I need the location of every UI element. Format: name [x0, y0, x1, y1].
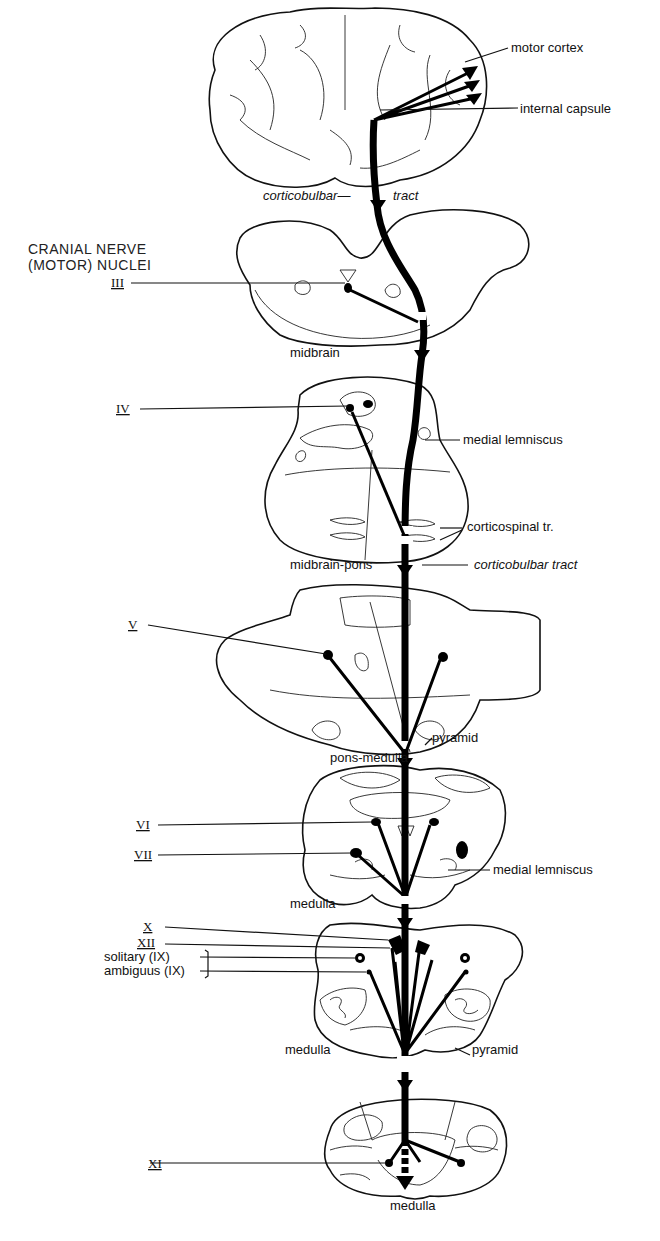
nucleus-label-X: X	[143, 919, 153, 934]
label-medial-lemniscus-2: medial lemniscus	[493, 862, 593, 877]
heading-line2: (MOTOR) NUCLEI	[28, 257, 151, 273]
section-label-midbrain-pons: midbrain-pons	[290, 557, 373, 572]
nuclear-branches	[323, 283, 470, 1167]
nucleus-label-VI: VI	[136, 817, 150, 832]
section-label-pons-medulla: pons-medulla	[330, 750, 409, 765]
label-corticobulbar-top: corticobulbar—	[263, 188, 351, 203]
label-pyramid-2: pyramid	[472, 1042, 518, 1057]
corticobulbar-tract-path	[370, 66, 482, 1190]
label-tract-top: tract	[393, 188, 420, 203]
section-label-medulla-middle: medulla	[285, 1042, 331, 1057]
nucleus-label-V: V	[128, 617, 138, 632]
nucleus-label-ambiguus: ambiguus (IX)	[104, 963, 185, 978]
nucleus-label-VII: VII	[134, 847, 152, 862]
label-corticobulbar-mid: corticobulbar tract	[474, 557, 579, 572]
label-corticospinal: corticospinal tr.	[467, 519, 554, 534]
heading-line1: CRANIAL NERVE	[28, 241, 147, 257]
cortex-section	[209, 8, 486, 187]
nucleus-label-solitary: solitary (IX)	[104, 949, 170, 964]
corticobulbar-diagram: motor cortex internal capsule corticobul…	[0, 0, 660, 1241]
labels: motor cortex internal capsule corticobul…	[28, 40, 611, 1213]
label-medial-lemniscus-1: medial lemniscus	[463, 432, 563, 447]
pons-medulla-section	[217, 585, 540, 755]
nucleus-label-III: III	[111, 275, 124, 290]
label-internal-capsule: internal capsule	[520, 101, 611, 116]
label-pyramid-1: pyramid	[432, 730, 478, 745]
medulla-lower-section	[325, 1099, 507, 1199]
section-label-medulla-lower: medulla	[390, 1198, 436, 1213]
nucleus-label-IV: IV	[116, 401, 130, 416]
nucleus-label-XI: XI	[148, 1156, 162, 1171]
nucleus-label-XII: XII	[137, 935, 155, 950]
label-motor-cortex: motor cortex	[511, 40, 584, 55]
section-label-medulla-upper: medulla	[290, 896, 336, 911]
section-label-midbrain: midbrain	[290, 345, 340, 360]
